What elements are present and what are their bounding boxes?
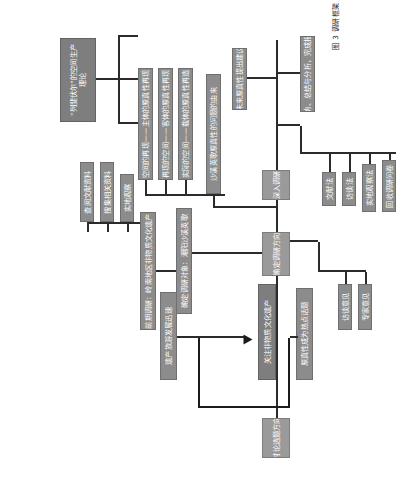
topic-bracket: [198, 338, 290, 408]
theory-branch-left: [118, 122, 138, 124]
preliminary-to-object-line: [156, 270, 176, 272]
node-collect-materials: 搜集相关资料: [100, 162, 114, 222]
node-literature-review: 查阅文献资料: [80, 162, 94, 222]
methods-fan-stem: [300, 126, 302, 154]
representational-space-connector: [165, 180, 167, 196]
conclusion-connector: [276, 72, 300, 74]
field-survey-method-connector: [369, 154, 371, 164]
node-heritage-tourism: 遗产旅游发展迅速: [160, 292, 177, 380]
arrow-shaft-to-focus-ich: [199, 336, 245, 338]
node-research-object: 确定调研对象：潮阳沙溪英歌: [176, 208, 192, 314]
space-representation-connector: [145, 180, 147, 196]
theory-branch-bar: [118, 36, 120, 124]
node-conclusion: 归纳、总结与分析，完成报告: [300, 36, 315, 112]
sources-merge-vertical: [87, 222, 147, 224]
node-focus-ich: 关注非物质文化遗产: [258, 284, 276, 380]
node-lefebvre-theory: "列斐伏尔"的空间生产理论: [60, 38, 96, 122]
spatial-practice-connector: [185, 180, 187, 196]
collect-materials-connector: [107, 222, 109, 232]
analysis-to-spine: [213, 206, 276, 208]
node-future-suggestions: 未来原真性提出建议: [232, 48, 247, 110]
node-determine-research-direction: 确定调研方向: [262, 232, 290, 276]
theory-branch-right: [118, 35, 138, 37]
heritage-tourism-connector: [177, 336, 199, 338]
arrow-head-to-focus-ich: [244, 335, 253, 345]
node-expert-opinion: 专家意见: [358, 284, 372, 330]
interview-method-connector: [349, 154, 351, 172]
field-observation-connector: [127, 222, 129, 232]
node-topic-direction: 讨论选题方向: [262, 418, 290, 458]
node-field-survey-method: 实地观察法: [362, 164, 376, 212]
node-spatial-practice: 实际的空间——载体的原真性再造: [178, 68, 193, 180]
node-field-observation: 实地观察: [120, 174, 134, 222]
node-interview: 访谈意见: [338, 284, 352, 330]
node-questionnaire-method: 回收调研问卷: [382, 160, 396, 212]
theory-stem: [96, 78, 118, 80]
literature-method-connector: [329, 154, 331, 172]
figure-caption: 图 3 调研框架: [330, 2, 340, 50]
node-literature-method: 文献法: [322, 172, 336, 206]
opinion-branch-stem: [318, 242, 320, 272]
node-topic-hotspot: 原真性成为热点话题: [296, 288, 313, 380]
node-origin-of-authenticity: 沙溪英歌原真性的问题的由来: [206, 74, 221, 194]
opinion-branch-vertical: [318, 270, 366, 272]
object-to-spine-line: [192, 252, 262, 254]
questionnaire-method-connector: [389, 154, 391, 160]
node-representational-space: 再现的空间——客体的原真性再现: [158, 68, 173, 180]
interview-connector: [345, 272, 347, 284]
future-suggestions-connector: [247, 77, 276, 79]
methods-fan-to-spine: [276, 124, 300, 126]
expert-opinion-connector: [365, 272, 367, 284]
topic-hotspot-connector: [290, 336, 298, 338]
node-interview-method: 访谈法: [342, 172, 356, 206]
node-preliminary-survey: 前期调研：岭南地区非物质文化遗产: [140, 212, 156, 330]
node-space-representation: 空间的再现——主体的原真性再现: [138, 68, 153, 180]
literature-review-connector: [87, 222, 89, 232]
methods-fan-vertical: [300, 152, 396, 154]
opinion-branch-to-spine: [290, 240, 318, 242]
node-in-depth-survey: 深入调研: [262, 170, 290, 200]
theory-branch-mid: [118, 78, 138, 80]
